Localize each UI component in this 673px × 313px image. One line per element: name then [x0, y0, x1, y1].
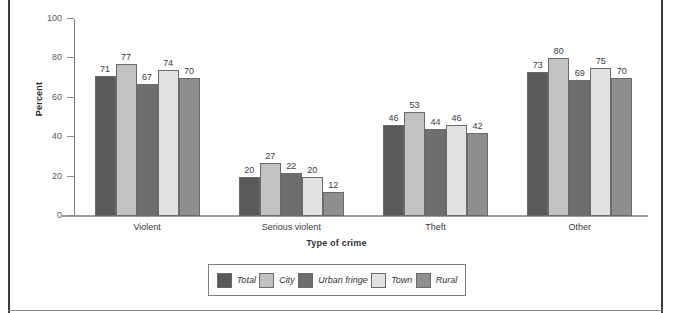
bar-value-label: 74 [163, 58, 173, 68]
bar-value-label: 20 [307, 165, 317, 175]
bar-town[interactable] [590, 68, 611, 216]
bar-rural[interactable] [323, 192, 344, 216]
legend-item[interactable]: Total [217, 273, 256, 288]
bar-urban-fringe[interactable] [281, 173, 302, 216]
bar-value-label: 42 [473, 121, 483, 131]
y-axis-tick: 100 [67, 18, 74, 19]
bar-value-label: 27 [265, 151, 275, 161]
bar-value-label: 70 [617, 66, 627, 76]
bar-group-bars: 4653444642 [364, 19, 508, 216]
bar-slot: 70 [179, 19, 200, 216]
x-axis-category-label: Violent [75, 222, 219, 232]
bar-city[interactable] [548, 58, 569, 216]
bar-group-bars: 2027222012 [219, 19, 363, 216]
bar-value-label: 70 [184, 66, 194, 76]
bar-value-label: 53 [410, 100, 420, 110]
y-axis-tick-label: 100 [47, 13, 62, 23]
bar-urban-fringe[interactable] [425, 129, 446, 216]
bar-value-label: 12 [328, 180, 338, 190]
bar-slot: 46 [446, 19, 467, 216]
legend-item[interactable]: Urban fringe [298, 273, 368, 288]
y-axis-tick-label: 20 [52, 171, 62, 181]
x-axis-category-label: Serious violent [219, 222, 363, 232]
bar-value-label: 71 [100, 64, 110, 74]
bar-value-label: 77 [121, 52, 131, 62]
bar-total[interactable] [95, 76, 116, 216]
bar-town[interactable] [158, 70, 179, 216]
y-axis-tick: 40 [67, 136, 74, 137]
legend-label: City [279, 275, 295, 285]
bar-value-label: 75 [596, 56, 606, 66]
bar-group-bars: 7380697570 [508, 19, 652, 216]
legend-swatch-icon [259, 273, 274, 288]
legend-swatch-icon [298, 273, 313, 288]
y-axis-tick-label: 0 [57, 210, 62, 220]
bar-group: 7380697570Other [508, 19, 652, 216]
y-axis-tick: 60 [67, 97, 74, 98]
x-axis-category-label: Theft [364, 222, 508, 232]
bar-value-label: 80 [554, 46, 564, 56]
bar-total[interactable] [383, 125, 404, 216]
bar-slot: 75 [590, 19, 611, 216]
bar-value-label: 22 [286, 161, 296, 171]
bar-slot: 20 [302, 19, 323, 216]
bar-rural[interactable] [467, 133, 488, 216]
bar-rural[interactable] [611, 78, 632, 216]
bar-value-label: 67 [142, 72, 152, 82]
bar-slot: 73 [527, 19, 548, 216]
y-axis-title: Percent [34, 82, 44, 116]
bar-value-label: 46 [452, 113, 462, 123]
bar-slot: 71 [95, 19, 116, 216]
bar-slot: 67 [137, 19, 158, 216]
bar-city[interactable] [404, 112, 425, 216]
bar-slot: 12 [323, 19, 344, 216]
bar-group: 2027222012Serious violent [219, 19, 363, 216]
chart-legend: TotalCityUrban fringeTownRural [208, 264, 466, 296]
bar-group: 4653444642Theft [364, 19, 508, 216]
bar-group-bars: 7177677470 [75, 19, 219, 216]
bar-town[interactable] [302, 177, 323, 216]
y-axis-tick-label: 40 [52, 131, 62, 141]
bar-value-label: 73 [533, 60, 543, 70]
y-axis-tick-label: 80 [52, 52, 62, 62]
legend-label: Rural [436, 275, 458, 285]
bar-urban-fringe[interactable] [569, 80, 590, 216]
x-axis-category-label: Other [508, 222, 652, 232]
bar-rural[interactable] [179, 78, 200, 216]
bar-value-label: 20 [244, 165, 254, 175]
bar-slot: 77 [116, 19, 137, 216]
legend-label: Town [391, 275, 412, 285]
bar-city[interactable] [116, 64, 137, 216]
y-axis-tick: 20 [67, 176, 74, 177]
legend-swatch-icon [416, 273, 431, 288]
legend-label: Urban fringe [318, 275, 368, 285]
bar-slot: 69 [569, 19, 590, 216]
bar-slot: 46 [383, 19, 404, 216]
bar-groups: 7177677470Violent2027222012Serious viole… [75, 19, 652, 216]
bar-urban-fringe[interactable] [137, 84, 158, 216]
legend-item[interactable]: Rural [416, 273, 458, 288]
bar-slot: 27 [260, 19, 281, 216]
legend-label: Total [237, 275, 256, 285]
bar-city[interactable] [260, 163, 281, 216]
bar-town[interactable] [446, 125, 467, 216]
plot-area: 020406080100 7177677470Violent2027222012… [74, 19, 652, 216]
frame-border-left [8, 0, 10, 313]
bar-value-label: 69 [575, 68, 585, 78]
frame-border-bottom [8, 310, 663, 311]
legend-swatch-icon [217, 273, 232, 288]
bar-value-label: 44 [431, 117, 441, 127]
bar-slot: 53 [404, 19, 425, 216]
bar-total[interactable] [527, 72, 548, 216]
legend-swatch-icon [371, 273, 386, 288]
bar-slot: 44 [425, 19, 446, 216]
bar-group: 7177677470Violent [75, 19, 219, 216]
legend-item[interactable]: Town [371, 273, 412, 288]
bar-total[interactable] [239, 177, 260, 216]
chart-figure: Percent 020406080100 7177677470Violent20… [0, 0, 673, 313]
bar-value-label: 46 [389, 113, 399, 123]
frame-border-right [661, 0, 663, 313]
bar-slot: 42 [467, 19, 488, 216]
legend-item[interactable]: City [259, 273, 295, 288]
bar-slot: 22 [281, 19, 302, 216]
